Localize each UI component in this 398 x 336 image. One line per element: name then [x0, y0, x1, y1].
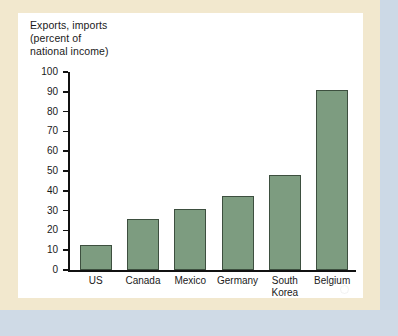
y-tick-mark [63, 190, 68, 192]
y-tick-label: 40 [32, 185, 58, 196]
page-edge-bottom [0, 310, 398, 336]
y-tick-mark [63, 230, 68, 232]
y-tick-label: 90 [32, 86, 58, 97]
y-tick-mark [63, 170, 68, 172]
y-tick-mark [63, 111, 68, 113]
figure-container: Exports, imports (percent of national in… [0, 0, 398, 336]
bar [127, 219, 159, 270]
x-axis-line [68, 270, 356, 272]
bar [174, 209, 206, 270]
page-edge-right [380, 0, 398, 336]
y-tick-label: 80 [32, 106, 58, 117]
bar [316, 90, 348, 270]
y-tick-label: 50 [32, 165, 58, 176]
y-tick-label: 20 [32, 224, 58, 235]
y-tick-mark [63, 210, 68, 212]
y-tick-mark [63, 269, 68, 271]
bar [222, 196, 254, 270]
y-tick-label: 60 [32, 145, 58, 156]
y-tick-mark [63, 249, 68, 251]
scan-speck [340, 285, 349, 294]
y-axis-line [68, 72, 70, 271]
plot-area: 1009080706050403020100 USCanadaMexicoGer… [18, 13, 363, 298]
bar [80, 245, 112, 270]
y-tick-label: 100 [32, 66, 58, 77]
y-tick-label: 0 [32, 264, 58, 275]
chart-panel: Exports, imports (percent of national in… [18, 13, 363, 298]
y-tick-label: 30 [32, 205, 58, 216]
y-tick-mark [63, 150, 68, 152]
bar [269, 175, 301, 270]
y-tick-label: 10 [32, 244, 58, 255]
y-tick-label: 70 [32, 125, 58, 136]
y-tick-mark [63, 71, 68, 73]
y-tick-mark [63, 131, 68, 133]
x-axis-category-label: Belgium [304, 275, 361, 287]
y-tick-mark [63, 91, 68, 93]
